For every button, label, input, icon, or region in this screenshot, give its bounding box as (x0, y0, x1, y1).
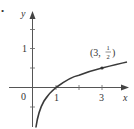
log-function-graph: • y x 0 1 3 1 (3, 1 2 ) (0, 0, 134, 129)
x-axis-label: x (122, 92, 128, 103)
annotation-denominator: 2 (107, 53, 110, 60)
y-axis-arrow-icon (30, 11, 36, 19)
y-axis (30, 11, 36, 127)
y-axis-label: y (20, 8, 26, 19)
y-tick-label-1: 1 (22, 43, 27, 54)
annotation-open: (3, (90, 47, 101, 59)
origin-label: 0 (21, 91, 26, 102)
annotation-close: ) (112, 47, 115, 59)
annotation-numerator: 1 (107, 44, 110, 51)
point-annotation: (3, 1 2 ) (90, 44, 115, 60)
x-tick-label-3: 3 (99, 92, 104, 103)
log-curve (36, 62, 127, 128)
x-axis-arrow-icon (121, 85, 129, 91)
bullet-marker: • (1, 6, 4, 16)
x-tick-label-1: 1 (54, 92, 59, 103)
point-3-half (100, 66, 103, 69)
x-axis (9, 85, 129, 91)
